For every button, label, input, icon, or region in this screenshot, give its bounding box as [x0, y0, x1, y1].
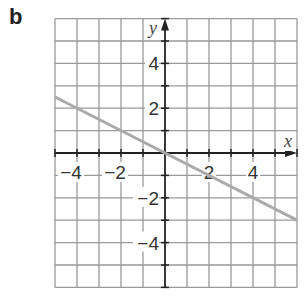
x-axis-label: x — [283, 131, 292, 151]
y-tick-label: 2 — [148, 98, 159, 119]
x-tick-label: 4 — [248, 162, 259, 183]
data-line — [55, 97, 297, 220]
x-tick-label: −4 — [60, 162, 82, 183]
x-tick-label: −2 — [104, 162, 126, 183]
y-tick-label: 4 — [148, 53, 159, 74]
y-tick-label: −2 — [137, 188, 159, 209]
y-tick-label: −4 — [137, 233, 159, 254]
y-axis-arrow-icon — [161, 19, 169, 31]
y-axis-label: y — [147, 18, 157, 38]
coordinate-grid-chart: −4−22442−2−4xy — [0, 0, 305, 303]
